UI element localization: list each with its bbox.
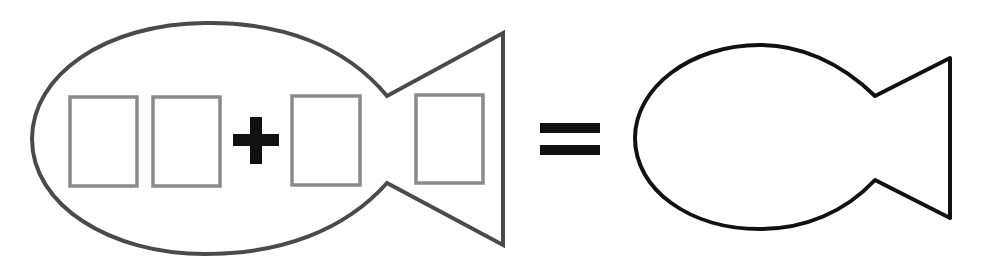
right-fish — [635, 45, 950, 229]
digit-box-2[interactable] — [153, 97, 220, 186]
equals-icon — [540, 123, 600, 155]
digit-box-3[interactable] — [292, 96, 360, 185]
answer-fish-outline[interactable] — [635, 45, 950, 229]
left-fish — [32, 23, 503, 254]
fish-addition-diagram — [0, 0, 986, 257]
digit-box-1[interactable] — [70, 97, 137, 186]
digit-box-4[interactable] — [416, 95, 483, 183]
